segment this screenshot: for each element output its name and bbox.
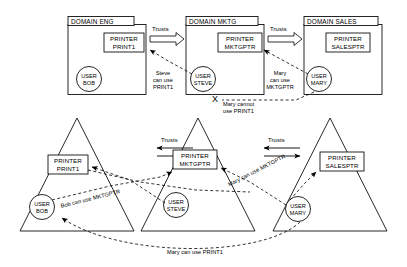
printer-mktg-tri-line2: MKTGPTR bbox=[173, 160, 217, 167]
user-mktg-line1: USER bbox=[188, 73, 218, 79]
user-eng-tri-line1: USER bbox=[27, 201, 57, 207]
printer-sales-line1: PRINTER bbox=[326, 35, 370, 42]
note-steve-print1-line2: can use bbox=[141, 77, 185, 83]
user-sales-tri-line2: MARY bbox=[283, 210, 313, 216]
printer-mktg-tri-line1: PRINTER bbox=[173, 152, 217, 159]
domain-title-mktg: DOMAIN MKTG bbox=[189, 18, 236, 25]
user-mktg-tri-line1: USER bbox=[161, 199, 191, 205]
user-mktg-tri-line2: STEVE bbox=[161, 206, 191, 212]
trust-arrow-eng-mktg bbox=[150, 33, 184, 46]
note-mary-print1-curve: Mary can use PRINT1 bbox=[135, 249, 255, 255]
printer-sales-tri-line1: PRINTER bbox=[320, 154, 364, 161]
user-eng-line1: USER bbox=[74, 73, 104, 79]
note-steve-print1-line3: PRINT1 bbox=[141, 84, 185, 90]
user-mktg-line2: STEVE bbox=[188, 80, 218, 86]
printer-eng-tri-line2: PRINT1 bbox=[48, 165, 88, 172]
trust-label-top-1: Trusts bbox=[152, 26, 169, 33]
note-mary-cannot-line2: use PRINT1 bbox=[223, 108, 254, 114]
diagram-canvas: DOMAIN ENG DOMAIN MKTG DOMAIN SALES PRIN… bbox=[0, 0, 407, 267]
trust-arrow-mktg-sales bbox=[268, 33, 302, 46]
printer-mktg-line2: MKTGPTR bbox=[218, 43, 262, 50]
user-sales-tri-line1: USER bbox=[283, 203, 313, 209]
user-sales-line2: MARY bbox=[304, 80, 334, 86]
user-eng-tri-line2: BOB bbox=[27, 208, 57, 214]
note-mary-cannot-line1: Mary cannot bbox=[223, 101, 254, 107]
blocked-x-icon: X bbox=[212, 94, 218, 104]
user-eng-line2: BOB bbox=[74, 80, 104, 86]
printer-eng-line1: PRINTER bbox=[104, 35, 144, 42]
note-mary-mktgptr-line1: Mary bbox=[256, 70, 304, 76]
note-mary-mktgptr-line3: MKTGPTR bbox=[256, 84, 304, 90]
domain-title-sales: DOMAIN SALES bbox=[307, 18, 357, 25]
user-sales-line1: USER bbox=[304, 73, 334, 79]
trust-label-top-2: Trusts bbox=[270, 26, 287, 33]
printer-eng-line2: PRINT1 bbox=[104, 43, 144, 50]
printer-eng-tri-line1: PRINTER bbox=[48, 157, 88, 164]
trust-label-bottom-1: Trusts bbox=[161, 137, 178, 144]
printer-mktg-line1: PRINTER bbox=[218, 35, 262, 42]
domain-title-eng: DOMAIN ENG bbox=[71, 18, 114, 25]
trust-label-bottom-2: Trusts bbox=[268, 137, 285, 144]
note-steve-print1-line1: Steve bbox=[141, 70, 185, 76]
printer-sales-line2: SALESPTR bbox=[326, 43, 370, 50]
printer-sales-tri-line2: SALESPTR bbox=[320, 162, 364, 169]
triangle-mktg bbox=[141, 118, 255, 231]
note-mary-mktgptr-line2: can use bbox=[256, 77, 304, 83]
